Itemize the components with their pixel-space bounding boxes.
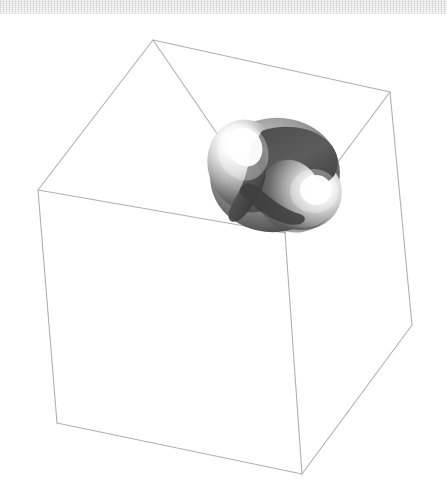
highlight-lower-right-falloff (290, 169, 338, 213)
cube-edge-vertical-left (38, 190, 57, 423)
cube-edge-top-back-left (38, 40, 153, 190)
scene-graphic (0, 0, 447, 503)
cube-edge-bottom-right (302, 325, 412, 474)
implicit-surface (195, 109, 348, 241)
cube-edge-vertical-center (285, 233, 302, 474)
cube-edge-top-back-right (153, 40, 390, 92)
cube-edge-vertical-right (390, 92, 412, 325)
bounding-cube-wireframe (38, 40, 412, 474)
plot-canvas: 3D implicit surface plot (0, 0, 447, 503)
cube-edge-bottom-left (57, 423, 302, 474)
